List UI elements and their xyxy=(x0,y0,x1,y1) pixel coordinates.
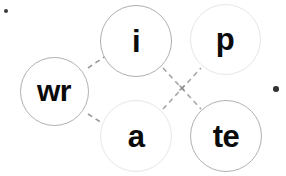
letter-tile-label-te: te xyxy=(213,121,240,152)
letter-tile-label-a: a xyxy=(128,121,145,152)
letter-tile-label-i: i xyxy=(132,26,140,57)
right-dot xyxy=(273,86,279,92)
word-building-canvas: wripate xyxy=(0,0,286,176)
letter-tile-p[interactable]: p xyxy=(190,4,261,75)
letter-tile-label-p: p xyxy=(216,24,234,55)
letter-tile-a[interactable]: a xyxy=(100,100,172,172)
letter-tile-i[interactable]: i xyxy=(100,5,172,77)
letter-tile-te[interactable]: te xyxy=(190,100,262,172)
letter-tile-label-wr: wr xyxy=(37,76,71,106)
letter-tile-wr[interactable]: wr xyxy=(20,57,89,126)
